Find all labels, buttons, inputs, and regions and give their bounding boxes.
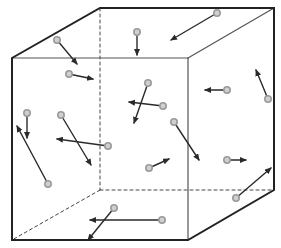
particle xyxy=(171,10,220,40)
particle xyxy=(224,157,246,163)
particle-dot-icon xyxy=(224,157,230,163)
particle xyxy=(17,126,51,187)
velocity-arrow-icon xyxy=(236,168,271,198)
particle-dot-icon xyxy=(265,96,271,102)
particle-dot-icon xyxy=(24,110,30,116)
particle-dot-icon xyxy=(159,217,165,223)
velocity-arrow-icon xyxy=(129,102,163,106)
particle-dot-icon xyxy=(105,143,111,149)
particle xyxy=(134,80,151,123)
particle xyxy=(146,159,169,171)
particle-dot-icon xyxy=(233,195,239,201)
particle-dot-icon xyxy=(145,80,151,86)
particle xyxy=(24,110,30,138)
particle-dot-icon xyxy=(214,10,220,16)
particle-dot-icon xyxy=(171,119,177,125)
particle-dot-icon xyxy=(54,37,60,43)
particle xyxy=(129,102,166,109)
cube-diagram xyxy=(0,0,281,248)
particle-dot-icon xyxy=(134,29,140,35)
particle xyxy=(66,71,93,79)
edge-top-right-depth xyxy=(188,8,274,58)
particle-dot-icon xyxy=(160,103,166,109)
particle xyxy=(58,112,91,165)
velocity-arrow-icon xyxy=(88,208,114,240)
particle-dot-icon xyxy=(45,181,51,187)
velocity-arrow-icon xyxy=(57,40,77,64)
particle xyxy=(88,205,117,240)
particle-dot-icon xyxy=(58,112,64,118)
particle xyxy=(205,87,230,93)
particle-dot-icon xyxy=(146,165,152,171)
particle-dot-icon xyxy=(224,87,230,93)
hidden-edge-bottom-left-depth xyxy=(12,190,100,240)
cube-outline xyxy=(12,8,274,240)
particle xyxy=(57,139,111,149)
velocity-arrow-icon xyxy=(174,122,199,160)
particle xyxy=(54,37,77,64)
hidden-edges xyxy=(12,8,274,240)
velocity-arrow-icon xyxy=(171,13,217,40)
velocity-arrow-icon xyxy=(256,70,268,99)
particle-dot-icon xyxy=(111,205,117,211)
diagram-stage xyxy=(0,0,281,248)
cube-silhouette xyxy=(12,8,274,240)
particles xyxy=(17,10,271,240)
velocity-arrow-icon xyxy=(17,126,48,184)
particle xyxy=(90,217,165,223)
particle xyxy=(171,119,199,160)
visible-inner-edges xyxy=(12,8,274,240)
particle-dot-icon xyxy=(66,71,72,77)
particle xyxy=(256,70,271,102)
particle xyxy=(134,29,140,55)
